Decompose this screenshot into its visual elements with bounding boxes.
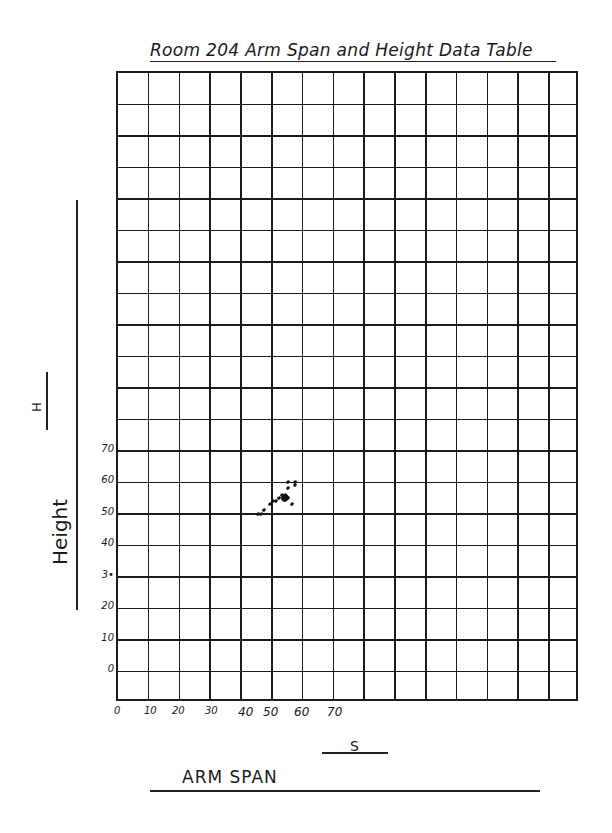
x-axis-label: ARM SPAN <box>182 767 278 787</box>
grid-hline <box>118 576 576 578</box>
x-tick-label: 50 <box>263 705 278 719</box>
y-tick-label: 40 <box>94 537 114 548</box>
grid-hline <box>118 356 576 358</box>
y-axis-label: Height <box>48 499 72 565</box>
x-symbol-rule <box>322 752 388 754</box>
grid-hline <box>118 482 576 484</box>
y-tick-label: 0 <box>94 663 114 674</box>
grid-hline <box>118 671 576 673</box>
grid-hline <box>118 293 576 295</box>
x-tick-label: 10 <box>144 705 157 716</box>
x-tick-label: 0 <box>114 705 120 716</box>
x-tick-label: 40 <box>238 705 253 719</box>
grid-hline <box>118 450 576 452</box>
title-underline <box>150 61 556 62</box>
y-symbol-rule <box>46 372 48 430</box>
chart-title: Room 204 Arm Span and Height Data Table <box>150 40 560 60</box>
y-axis-label-rule <box>76 200 78 610</box>
y-tick-label: 20 <box>94 600 114 611</box>
grid-hline <box>118 198 576 200</box>
y-tick-label: 10 <box>94 632 114 643</box>
y-axis-symbol: H <box>29 402 44 412</box>
graph-grid <box>116 71 578 701</box>
grid-hline <box>118 135 576 137</box>
grid-hline <box>118 639 576 641</box>
grid-hline <box>118 608 576 610</box>
x-tick-label: 20 <box>172 705 185 716</box>
y-tick-label: 50 <box>94 506 114 517</box>
x-tick-label: 70 <box>327 705 342 719</box>
grid-hline <box>118 261 576 263</box>
y-tick-label: 70 <box>94 443 114 454</box>
x-axis-label-rule <box>150 790 540 792</box>
grid-hline <box>118 419 576 421</box>
grid-hline <box>118 167 576 169</box>
grid-hline <box>118 230 576 232</box>
y-tick-label: 3• <box>94 569 114 580</box>
grid-hline <box>118 387 576 389</box>
y-tick-label: 60 <box>94 474 114 485</box>
x-tick-label: 30 <box>205 705 218 716</box>
grid-hline <box>118 104 576 106</box>
grid-hline <box>118 513 576 515</box>
grid-hline <box>118 324 576 326</box>
x-tick-label: 60 <box>294 705 309 719</box>
grid-hline <box>118 545 576 547</box>
